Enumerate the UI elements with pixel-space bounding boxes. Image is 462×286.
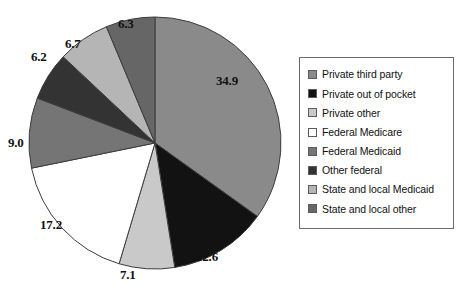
pie-data-label: 6.2 [31, 50, 47, 63]
legend-item[interactable]: Federal Medicaid [308, 142, 447, 161]
legend-item-label: State and local Medicaid [322, 184, 434, 195]
legend-item[interactable]: State and local other [308, 199, 447, 218]
legend-color-swatch-icon [308, 128, 317, 137]
pie-data-label: 9.0 [8, 136, 24, 149]
legend-item-label: Other federal [322, 165, 382, 176]
legend-item[interactable]: Private third party [308, 65, 447, 84]
legend-color-swatch-icon [308, 108, 317, 117]
legend-item-label: Federal Medicaid [322, 146, 401, 157]
legend-item-label: Private other [322, 108, 380, 119]
pie-chart-svg [26, 14, 284, 272]
legend-item[interactable]: Private other [308, 103, 447, 122]
legend-color-swatch-icon [308, 185, 317, 194]
legend-item-label: Federal Medicare [322, 127, 402, 138]
chart-legend: Private third partyPrivate out of pocket… [299, 57, 454, 229]
pie-data-label: 12.6 [196, 250, 218, 263]
legend-item-label: Private third party [322, 69, 402, 80]
pie-data-label: 6.3 [118, 17, 134, 30]
legend-color-swatch-icon [308, 147, 317, 156]
pie-data-label: 7.1 [120, 268, 136, 281]
legend-color-swatch-icon [308, 166, 317, 175]
legend-color-swatch-icon [308, 70, 317, 79]
legend-item[interactable]: Federal Medicare [308, 123, 447, 142]
legend-item[interactable]: Private out of pocket [308, 84, 447, 103]
legend-item[interactable]: Other federal [308, 161, 447, 180]
legend-item[interactable]: State and local Medicaid [308, 180, 447, 199]
pie-chart-figure: 34.912.67.117.29.06.26.76.3 Private thir… [0, 0, 462, 286]
legend-color-swatch-icon [308, 204, 317, 213]
legend-item-label: Private out of pocket [322, 89, 416, 100]
pie-data-label: 17.2 [40, 218, 62, 231]
pie-data-label: 6.7 [65, 37, 81, 50]
pie-slice-group [29, 17, 281, 269]
legend-item-label: State and local other [322, 204, 416, 215]
pie-data-label: 34.9 [216, 74, 238, 87]
pie-chart-plot-area [26, 14, 284, 272]
legend-color-swatch-icon [308, 89, 317, 98]
